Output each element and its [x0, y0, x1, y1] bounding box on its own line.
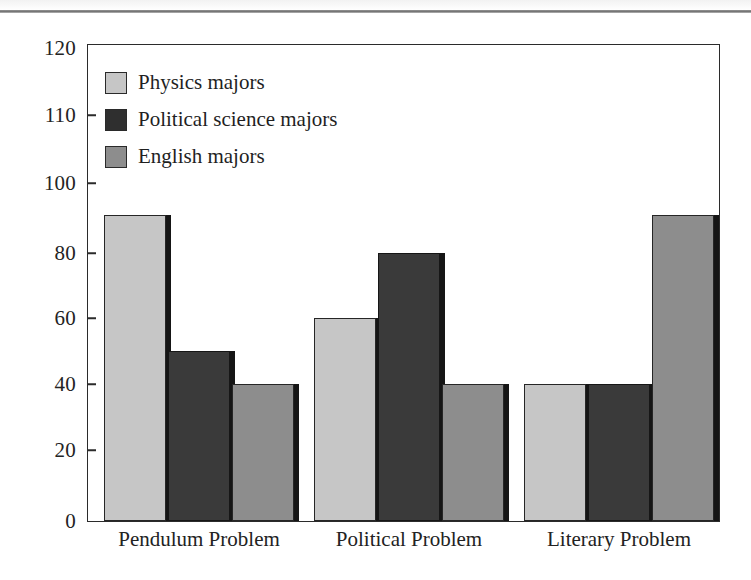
y-axis-tick-labels: 020406080100110120: [0, 0, 76, 580]
x-axis-category-label: Pendulum Problem: [118, 527, 280, 552]
legend-swatch-icon: [105, 146, 127, 168]
x-axis-category-label: Literary Problem: [547, 527, 691, 552]
legend-swatch-icon: [105, 109, 127, 131]
y-axis-tick-label: 0: [65, 509, 76, 534]
y-axis-tick-label: 120: [44, 36, 76, 61]
bar-literary-problem-political-science-majors: [588, 384, 650, 521]
y-axis-tick-label: 40: [55, 372, 76, 397]
bar-literary-problem-physics-majors: [524, 384, 586, 521]
bar-pendulum-problem-physics-majors: [104, 215, 166, 522]
page-top-rule: [0, 10, 751, 13]
bar-political-problem-english-majors: [442, 384, 504, 521]
y-axis-tick-label: 110: [45, 103, 76, 128]
page-top-shading: [0, 0, 751, 10]
bar-literary-problem-english-majors: [652, 215, 714, 522]
legend-item-label: Political science majors: [138, 109, 337, 130]
y-axis-tick-label: 100: [44, 171, 76, 196]
bar-pendulum-problem-english-majors: [232, 384, 294, 521]
legend-item-label: Physics majors: [138, 72, 265, 93]
bar-political-problem-political-science-majors: [378, 253, 440, 521]
chart-page: 020406080100110120 Pendulum ProblemPolit…: [0, 0, 751, 580]
bar-political-problem-physics-majors: [314, 318, 376, 521]
y-axis-tick-label: 80: [55, 241, 76, 266]
x-axis-category-label: Political Problem: [336, 527, 482, 552]
legend-item-label: English majors: [138, 146, 265, 167]
legend-item: Political science majors: [105, 103, 405, 136]
chart-legend: Physics majorsPolitical science majorsEn…: [105, 66, 405, 177]
legend-item: English majors: [105, 140, 405, 173]
y-axis-tick-label: 60: [55, 306, 76, 331]
legend-item: Physics majors: [105, 66, 405, 99]
bar-pendulum-problem-political-science-majors: [168, 351, 230, 521]
legend-swatch-icon: [105, 72, 127, 94]
y-axis-tick-label: 20: [55, 438, 76, 463]
